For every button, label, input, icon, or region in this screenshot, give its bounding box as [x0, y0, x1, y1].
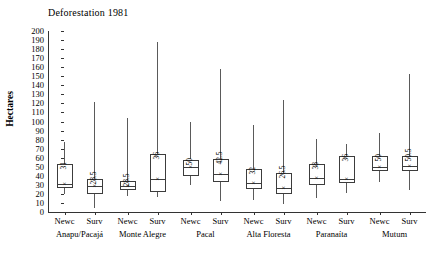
y-tick-label: 50	[18, 163, 44, 171]
x-tick-mark	[128, 212, 129, 215]
box-plot: ×28.5	[120, 31, 136, 212]
y-tick-label: 180	[18, 45, 44, 53]
y-tick-label: 130	[18, 90, 44, 98]
x-tick-mark	[191, 212, 192, 215]
y-tick-label: 10	[18, 199, 44, 207]
x-tick-mark	[347, 212, 348, 215]
y-tick-label: 30	[18, 181, 44, 189]
lower-whisker	[316, 185, 317, 198]
upper-whisker	[190, 122, 191, 159]
x-category-label: Newc	[181, 216, 201, 226]
upper-whisker	[253, 125, 254, 169]
box-body	[150, 154, 166, 192]
box-plot: ×28.5	[87, 31, 103, 212]
box-plot: ×42.5	[213, 31, 229, 212]
lower-whisker	[253, 189, 254, 200]
x-tick-mark	[65, 212, 66, 215]
median-value-label: 31	[59, 162, 67, 170]
mean-marker: ×	[345, 176, 349, 183]
median-value-label: 38	[311, 162, 319, 170]
median-value-label: 28.5	[89, 171, 97, 184]
upper-whisker	[157, 42, 158, 154]
median-value-label: 26.5	[278, 165, 286, 178]
median-value-label: 36	[341, 154, 349, 162]
x-category-label: Surv	[212, 216, 228, 226]
x-category-label: Newc	[370, 216, 390, 226]
box-plot: ×36	[339, 31, 355, 212]
x-tick-mark	[284, 212, 285, 215]
upper-whisker	[283, 100, 284, 173]
x-category-label: Surv	[149, 216, 165, 226]
lower-whisker	[127, 190, 128, 195]
mean-marker: ×	[408, 163, 412, 170]
box-plot: ×50	[183, 31, 199, 212]
x-group-label: Monte Alegre	[119, 229, 166, 239]
y-tick-label: 190	[18, 36, 44, 44]
x-group-label: Anapu/Pacajá	[56, 229, 103, 239]
upper-whisker	[316, 139, 317, 164]
y-axis-label: Hectares	[5, 77, 15, 141]
y-tick-label: 140	[18, 81, 44, 89]
y-axis-ticks: 2001901801701601501401301201101009080706…	[16, 0, 44, 253]
y-tick-label: 80	[18, 136, 44, 144]
median-value-label: 32	[248, 167, 256, 175]
median-value-label: 36	[152, 152, 160, 160]
x-category-label: Newc	[55, 216, 75, 226]
y-tick-label: 0	[18, 208, 44, 216]
x-axis-line	[48, 212, 426, 213]
x-tick-mark	[95, 212, 96, 215]
box-plot: ×38	[309, 31, 325, 212]
upper-whisker	[379, 133, 380, 156]
y-tick-label: 200	[18, 27, 44, 35]
box-plot: ×32	[246, 31, 262, 212]
lower-whisker	[409, 171, 410, 190]
median-value-label: 50.5	[404, 148, 412, 161]
x-tick-mark	[158, 212, 159, 215]
lower-whisker	[283, 194, 284, 204]
x-category-label: Surv	[275, 216, 291, 226]
box-plot: ×26.5	[276, 31, 292, 212]
y-tick-label: 110	[18, 108, 44, 116]
x-category-label: Surv	[338, 216, 354, 226]
mean-marker: ×	[219, 170, 223, 177]
box-plot: ×50.5	[402, 31, 418, 212]
x-category-label: Newc	[118, 216, 138, 226]
upper-whisker	[409, 74, 410, 155]
x-group-label: Mutum	[382, 229, 407, 239]
lower-whisker	[346, 183, 347, 193]
y-tick-label: 170	[18, 54, 44, 62]
y-tick-label: 90	[18, 127, 44, 135]
mean-marker: ×	[282, 185, 286, 192]
x-group-label: Alta Floresta	[246, 229, 290, 239]
y-tick-label: 70	[18, 145, 44, 153]
mean-marker: ×	[252, 180, 256, 187]
y-tick-label: 160	[18, 63, 44, 71]
y-tick-label: 100	[18, 118, 44, 126]
x-tick-mark	[410, 212, 411, 215]
x-tick-mark	[380, 212, 381, 215]
box-plot: ×31	[57, 31, 73, 212]
y-tick-label: 40	[18, 172, 44, 180]
median-value-label: 42.5	[215, 151, 223, 164]
y-tick-label: 60	[18, 154, 44, 162]
y-tick-label: 120	[18, 99, 44, 107]
mean-marker: ×	[63, 180, 67, 187]
mean-marker: ×	[378, 163, 382, 170]
lower-whisker	[190, 176, 191, 185]
median-value-label: 50	[374, 154, 382, 162]
box-plot-chart: Deforestation 1981 Hectares 200190180170…	[0, 0, 436, 253]
mean-marker: ×	[156, 176, 160, 183]
box-plot: ×50	[372, 31, 388, 212]
x-tick-mark	[221, 212, 222, 215]
upper-whisker	[220, 69, 221, 159]
x-category-label: Newc	[244, 216, 264, 226]
x-category-label: Surv	[401, 216, 417, 226]
median-value-label: 28.5	[122, 174, 130, 187]
lower-whisker	[379, 171, 380, 182]
x-category-label: Surv	[86, 216, 102, 226]
upper-whisker	[94, 102, 95, 179]
x-category-label: Newc	[307, 216, 327, 226]
lower-whisker	[64, 188, 65, 194]
x-tick-mark	[254, 212, 255, 215]
lower-whisker	[220, 182, 221, 201]
